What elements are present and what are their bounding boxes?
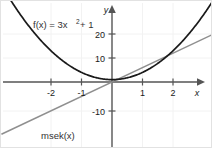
x-axis-arrow xyxy=(197,78,205,86)
secant-label-msek: msek(x) xyxy=(41,130,75,141)
xtick-label-neg2: -2 xyxy=(47,88,55,98)
ytick-label-10: 10 xyxy=(95,54,105,64)
xtick-label-pos2: 2 xyxy=(170,88,175,98)
graph-figure: -2 -1 1 2 20 10 -10 x y f(x) = 3x 2 + 1 … xyxy=(0,0,212,148)
y-axis-label: y xyxy=(103,5,109,15)
y-axis-arrow xyxy=(108,5,116,13)
function-label-group: f(x) = 3x 2 + 1 xyxy=(33,18,93,31)
x-axis-label: x xyxy=(194,88,200,98)
function-label-suffix: + 1 xyxy=(80,19,93,30)
xtick-label-neg1: -1 xyxy=(77,88,85,98)
function-label-prefix: f(x) = 3x xyxy=(33,19,68,30)
ytick-label-neg10: -10 xyxy=(92,107,105,117)
ytick-label-20: 20 xyxy=(95,30,105,40)
coordinate-plot: -2 -1 1 2 20 10 -10 x y f(x) = 3x 2 + 1 … xyxy=(1,1,212,148)
secant-line-msek xyxy=(1,35,212,135)
xtick-label-pos1: 1 xyxy=(140,88,145,98)
